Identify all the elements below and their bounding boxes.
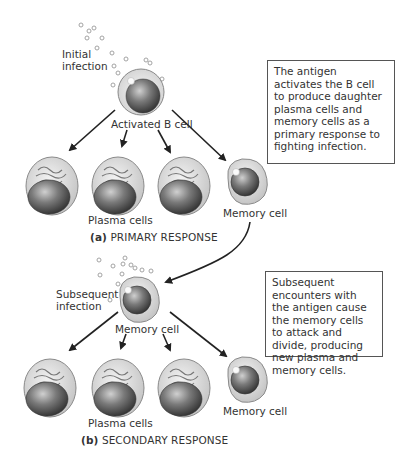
caption-primary-letter: (a) (90, 231, 107, 243)
plasma-cell-secondary-3 (158, 359, 210, 417)
activated-b-cell (118, 69, 164, 115)
plasma-cell-primary-3 (158, 157, 210, 215)
memory-cell-secondary-source (120, 277, 159, 322)
memory-cell-label-secondary: Memory cell (223, 405, 287, 417)
memory-cell-secondary (228, 357, 267, 402)
plasma-cells-label-primary: Plasma cells (88, 214, 153, 226)
plasma-cell-primary-1 (26, 157, 78, 215)
memory-cell-label-primary: Memory cell (223, 207, 287, 219)
memory-cell-primary (228, 159, 267, 204)
secondary-description-box: Subsequent encounters with the antigen c… (265, 271, 383, 357)
initial-infection-label: Initial infection (62, 48, 122, 72)
caption-secondary-letter: (b) (81, 434, 98, 446)
subsequent-infection-label: Subsequent infection (56, 288, 116, 312)
plasma-cells-label-secondary: Plasma cells (88, 417, 153, 429)
plasma-cell-secondary-1 (24, 359, 76, 417)
memory-cell-label-secondary-source: Memory cell (115, 323, 179, 335)
activated-b-cell-label: Activated B cell (111, 118, 193, 130)
caption-primary-response: (a) PRIMARY RESPONSE (90, 231, 218, 243)
plasma-cell-primary-2 (92, 157, 144, 215)
caption-secondary-text: SECONDARY RESPONSE (102, 434, 228, 446)
primary-description-box: The antigen activates the B cell to prod… (267, 60, 395, 164)
caption-primary-text: PRIMARY RESPONSE (110, 231, 217, 243)
caption-secondary-response: (b) SECONDARY RESPONSE (81, 434, 228, 446)
plasma-cell-secondary-2 (92, 359, 144, 417)
